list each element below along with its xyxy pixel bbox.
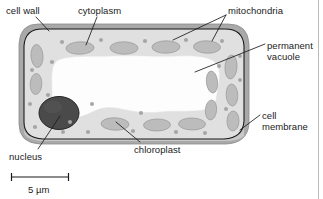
chloroplast (143, 119, 170, 131)
mitochondrion (220, 39, 224, 43)
mitochondrion (28, 102, 32, 106)
mitochondrion (46, 93, 50, 97)
label-cell-wall: cell wall (6, 5, 40, 16)
plant-cell-diagram-svg (0, 0, 323, 199)
mitochondrion (68, 120, 72, 124)
mitochondrion (139, 111, 143, 115)
label-nucleus: nucleus (9, 151, 42, 162)
mitochondrion (217, 64, 221, 68)
label-cell-membrane-line1: cell (262, 110, 276, 121)
mitochondrion (203, 131, 207, 135)
mitochondrion (131, 129, 135, 133)
label-cytoplasm: cytoplasm (78, 5, 121, 16)
plant-cell-diagram-figure: cell wall cytoplasm mitochondria permane… (0, 0, 323, 199)
mitochondrion (143, 39, 147, 43)
mitochondrion (86, 130, 90, 134)
mitochondrion (33, 125, 37, 129)
mitochondrion (99, 38, 103, 42)
mitochondrion (224, 107, 228, 111)
mitochondrion (30, 68, 34, 72)
label-permanent-vacuole-line1: permanent (267, 40, 313, 51)
chloroplast (178, 118, 205, 130)
nucleus-highlight (44, 101, 62, 114)
mitochondrion (90, 102, 94, 106)
mitochondrion (60, 40, 64, 44)
scale-bar (11, 173, 69, 181)
mitochondrion (50, 60, 54, 64)
nucleus-shape (39, 97, 79, 130)
mitochondrion (184, 38, 188, 42)
chloroplast (227, 111, 240, 131)
mitochondrion (174, 130, 178, 134)
label-mitochondria: mitochondria (228, 5, 283, 16)
label-chloroplast: chloroplast (134, 144, 181, 155)
label-cell-membrane: cell membrane (262, 110, 318, 132)
label-cell-membrane-line2: membrane (262, 121, 308, 132)
chloroplast (152, 41, 180, 54)
chloroplast (110, 42, 138, 55)
mitochondrion (61, 130, 65, 134)
mitochondrion (238, 78, 242, 82)
scale-bar-label: 5 µm (28, 184, 50, 195)
label-permanent-vacuole: permanent vacuole (267, 40, 319, 62)
label-permanent-vacuole-line2: vacuole (267, 51, 300, 62)
